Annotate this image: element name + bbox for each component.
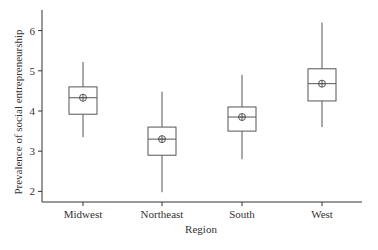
y-tick-label: 3 — [30, 145, 36, 157]
y-tick-label: 2 — [30, 185, 36, 197]
y-tick-label: 4 — [30, 105, 36, 117]
box-northeast — [148, 92, 176, 192]
box-midwest — [69, 62, 97, 137]
y-tick-label: 5 — [30, 65, 36, 77]
boxplot-chart: 23456 MidwestNortheastSouthWest Region P… — [0, 0, 378, 250]
x-tick-label: West — [311, 208, 333, 220]
y-axis-title: Prevalence of social entrepreneurship — [12, 29, 24, 195]
x-axis-title: Region — [185, 223, 217, 235]
x-tick-label: South — [229, 208, 255, 220]
box-south — [228, 75, 256, 159]
box-west — [308, 23, 336, 128]
x-tick-label: Midwest — [64, 208, 103, 220]
y-axis: 23456 — [30, 10, 43, 202]
y-tick-label: 6 — [30, 25, 36, 37]
box-series — [69, 23, 336, 193]
x-axis: MidwestNortheastSouthWest — [42, 202, 362, 220]
x-tick-label: Northeast — [141, 208, 184, 220]
